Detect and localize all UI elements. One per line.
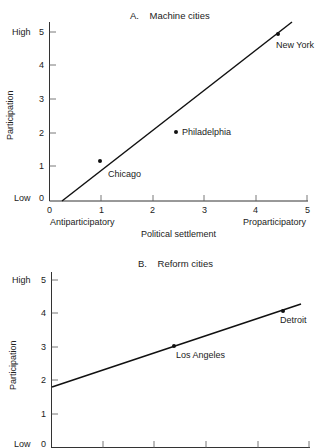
chart-a-x-axis-label: Political settlement: [141, 229, 217, 239]
label-new-york: New York: [276, 40, 315, 50]
chart-b-ytick-3: 3: [41, 342, 46, 352]
chart-a-ytick-2: 2: [39, 128, 44, 138]
chart-a-ytick-5: 5: [39, 27, 44, 37]
chart-a-xtick-1: 1: [99, 205, 104, 215]
chart-b-ytick-5: 5: [41, 275, 46, 285]
chart-a-ytick-1: 1: [39, 161, 44, 171]
chart-a-ytick-0: 0: [39, 193, 44, 203]
chart-b: B. Reform cities 5 4 3 2 1 0 High Low Pa…: [8, 258, 310, 448]
chart-a-xtick-2: 2: [150, 205, 155, 215]
point-los-angeles: [172, 344, 176, 348]
chart-a-pro-label: Proparticipatory: [243, 217, 307, 227]
point-new-york: [276, 32, 280, 36]
label-philadelphia: Philadelphia: [182, 127, 231, 137]
chart-b-ytick-1: 1: [41, 409, 46, 419]
chart-a-anti-label: Antiparticipatory: [50, 217, 115, 227]
chart-a-low-label: Low: [14, 193, 31, 203]
point-philadelphia: [174, 130, 178, 134]
chart-a-ytick-3: 3: [39, 94, 44, 104]
chart-b-y-ticks: [52, 280, 59, 414]
chart-b-x-ticks: [103, 441, 309, 448]
point-chicago: [98, 159, 102, 163]
chart-a-xtick-3: 3: [202, 205, 207, 215]
chart-b-ytick-2: 2: [41, 375, 46, 385]
chart-b-low-label: Low: [14, 439, 31, 448]
chart-a-xtick-0: 0: [47, 205, 52, 215]
chart-b-ytick-0: 0: [41, 439, 46, 448]
chart-b-high-label: High: [12, 275, 31, 285]
chart-b-y-axis-label: Participation: [8, 340, 18, 390]
label-detroit: Detroit: [280, 315, 307, 325]
label-los-angeles: Los Angeles: [176, 350, 226, 360]
chart-a-ytick-4: 4: [39, 60, 44, 70]
chart-b-fit-line: [52, 304, 301, 387]
chart-a-high-label: High: [12, 27, 31, 37]
chart-b-ytick-4: 4: [41, 308, 46, 318]
chart-b-title: B. Reform cities: [138, 258, 213, 269]
point-detroit: [281, 309, 285, 313]
chart-a-fit-line: [62, 22, 292, 201]
chart-a-x-ticks: [101, 195, 307, 201]
label-chicago: Chicago: [108, 169, 141, 179]
chart-a-xtick-5: 5: [305, 205, 310, 215]
chart-a: A. Machine cities 5 4 3 2 1 0 High Low 0: [5, 10, 315, 239]
figure: A. Machine cities 5 4 3 2 1 0 High Low 0: [0, 0, 320, 448]
chart-a-title: A. Machine cities: [130, 10, 210, 21]
chart-a-y-ticks: [50, 32, 57, 166]
chart-a-y-axis-label: Participation: [5, 90, 15, 140]
chart-a-xtick-4: 4: [253, 205, 258, 215]
